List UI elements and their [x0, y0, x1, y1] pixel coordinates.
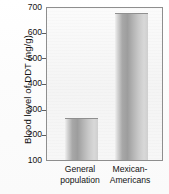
x-axis-labels: General population Mexican- Americans [46, 164, 163, 194]
plot-area [46, 7, 163, 161]
y-tick-label-300: 300 [16, 105, 42, 114]
y-tick-label-200: 200 [16, 130, 42, 139]
y-tick-label-400: 400 [16, 79, 42, 88]
bar-general-population [65, 118, 98, 160]
x-category-label-1-line2: Americans [101, 175, 159, 186]
y-tick-label-500: 500 [16, 54, 42, 63]
ddt-blood-level-bar-chart: Blood level of DDT (ng/g) 700 600 500 40… [0, 0, 169, 194]
x-category-label-1-line1: Mexican- [113, 164, 148, 174]
bar-mexican-americans [115, 13, 148, 160]
y-tick-label-700: 700 [16, 3, 42, 12]
x-category-label-0-line1: General [65, 164, 96, 174]
x-category-label-1: Mexican- Americans [101, 164, 159, 185]
y-tick-label-100: 100 [16, 156, 42, 165]
y-tick-label-600: 600 [16, 28, 42, 37]
y-axis-ticks: 700 600 500 400 300 200 100 [14, 0, 42, 194]
